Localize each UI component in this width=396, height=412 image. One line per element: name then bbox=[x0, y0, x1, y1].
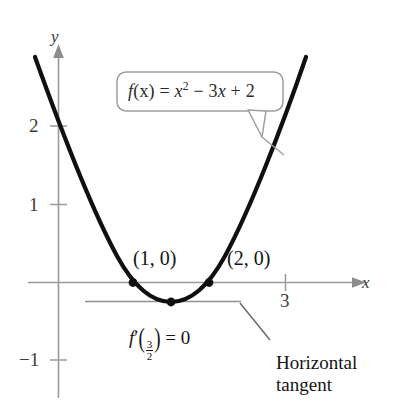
deriv-numerator: 3 bbox=[146, 339, 154, 350]
y-tick-label-minus-1: −1 bbox=[19, 350, 39, 369]
annotation-line-2: tangent bbox=[276, 374, 357, 396]
annotation-line-1: Horizontal bbox=[276, 352, 357, 374]
y-tick-label-1: 1 bbox=[29, 195, 39, 214]
tangent-leader-line bbox=[240, 303, 270, 340]
y-axis bbox=[50, 44, 67, 398]
deriv-fraction: 32 bbox=[146, 339, 154, 362]
function-equation-label: f(x) = x2 − 3x + 2 bbox=[128, 82, 255, 100]
y-tick-label-2: 2 bbox=[29, 116, 39, 135]
callout-term-x2: x bbox=[218, 81, 226, 101]
callout-mid: − 3 bbox=[189, 81, 218, 101]
x-axis-label: x bbox=[362, 274, 370, 291]
y-axis-label: y bbox=[51, 28, 59, 45]
deriv-close-paren: ) bbox=[154, 324, 160, 352]
point-label-root-1: (1, 0) bbox=[133, 248, 176, 268]
x-axis bbox=[28, 274, 366, 291]
point-marker-vertex bbox=[167, 298, 176, 307]
point-label-root-2: (2, 0) bbox=[227, 248, 270, 268]
graph-canvas bbox=[0, 0, 396, 412]
point-marker-root-2 bbox=[205, 278, 214, 287]
deriv-denominator: 2 bbox=[146, 350, 154, 362]
y-axis-arrowhead bbox=[53, 44, 64, 58]
x-tick-label-3: 3 bbox=[280, 291, 290, 310]
deriv-equals: = 0 bbox=[161, 327, 191, 348]
deriv-open-paren: ( bbox=[138, 324, 144, 352]
horizontal-tangent-annotation: Horizontal tangent bbox=[276, 352, 357, 397]
derivative-note-label: f′(32) = 0 bbox=[129, 328, 190, 363]
callout-end: + 2 bbox=[226, 81, 255, 101]
parabola-figure: y x 2 1 −1 3 (1, 0) (2, 0) f(x) = x2 − 3… bbox=[0, 0, 396, 412]
callout-arg: (x) = bbox=[133, 81, 174, 101]
callout-term-x: x bbox=[175, 81, 183, 101]
callout-tail bbox=[248, 110, 266, 137]
point-marker-root-1 bbox=[129, 278, 138, 287]
